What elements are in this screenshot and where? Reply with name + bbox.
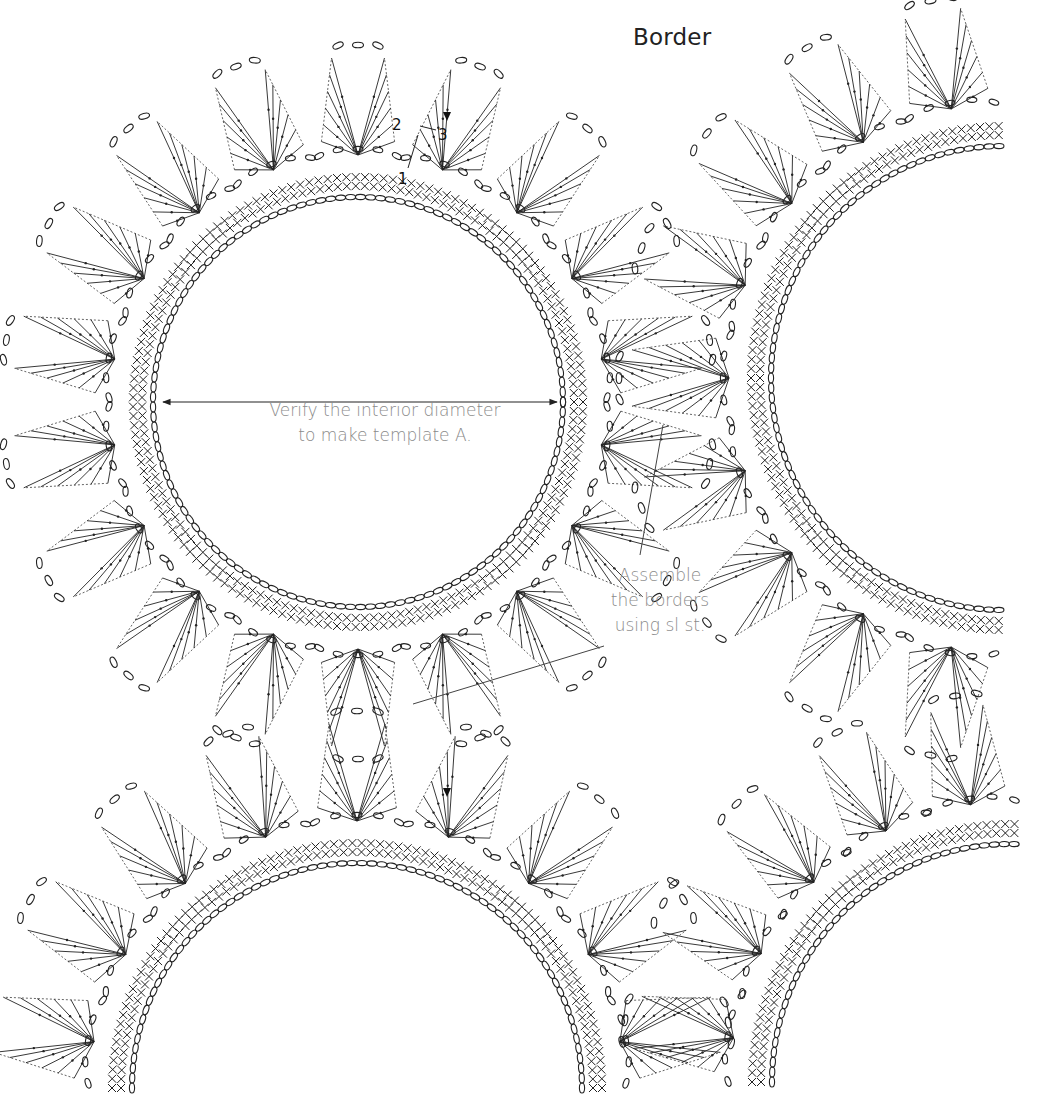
step-label-2: 2 [392, 116, 402, 134]
step-1-leader [408, 135, 418, 168]
assemble-note-line-2: the borders [605, 588, 715, 613]
bottom-left-border [0, 707, 735, 1093]
assemble-note-line-3: using sl st. [605, 613, 715, 638]
assemble-note: Assemble the borders using sl st. [605, 563, 715, 638]
diameter-note-line-1: Verify the interior diameter [225, 398, 545, 423]
border-motifs [0, 0, 1020, 1093]
diameter-note-line-2: to make template A. [225, 423, 545, 448]
step-3-leader [420, 126, 436, 130]
chart-title: Border [633, 24, 711, 50]
diameter-note: Verify the interior diameter to make tem… [225, 398, 545, 448]
assemble-note-line-1: Assemble [605, 563, 715, 588]
right-border [615, 0, 1004, 763]
assemble-leader-line-bottom [413, 646, 604, 704]
start-marker-icon-lower [443, 788, 451, 797]
bottom-right-border [618, 689, 1020, 1087]
assemble-leader-line-top [640, 425, 663, 555]
step-label-3: 3 [438, 126, 448, 144]
step-label-1: 1 [398, 170, 408, 188]
start-marker-icon [443, 112, 451, 121]
crochet-chart [0, 0, 1055, 1097]
